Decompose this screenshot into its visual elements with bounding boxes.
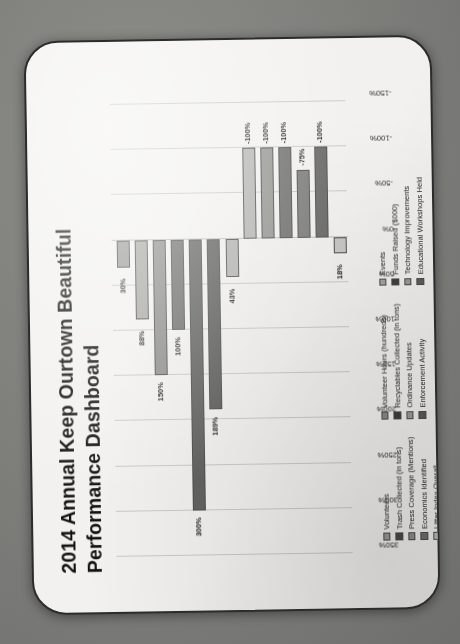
chart-bar-row: 150% xyxy=(150,104,170,556)
chart-bar-row: -100% xyxy=(241,103,261,555)
chart-bar-row: 189% xyxy=(205,103,225,555)
legend-swatch-icon xyxy=(396,533,404,541)
bar-value-label: 189% xyxy=(209,417,222,436)
legend-item-label: Volunteers xyxy=(382,494,392,530)
legend-swatch-icon xyxy=(404,278,412,286)
bar-value-label: -75% xyxy=(295,148,308,165)
chart-bar xyxy=(171,239,185,330)
bar-value-label: -100% xyxy=(277,122,290,144)
legend-item: Trash Collected (in tons) xyxy=(393,437,404,541)
legend-item-label: Recyclables Collected (in tons) xyxy=(391,304,402,408)
bar-value-label: 300% xyxy=(192,517,205,536)
legend-item-label: Events xyxy=(378,252,387,275)
legend-swatch-icon xyxy=(419,411,427,419)
chart-bar xyxy=(334,237,347,253)
slide-canvas: 2014 Annual Keep Ourtown Beautiful Perfo… xyxy=(37,48,428,602)
legend-column: Volunteer Hours (hundreds)Recyclables Co… xyxy=(379,303,440,419)
chart-bars: 30%88%150%100%300%189%43%-100%-100%-100%… xyxy=(112,101,353,557)
bar-value-label: 150% xyxy=(154,382,167,401)
bar-value-label: 43% xyxy=(225,289,238,304)
chart-legend: VolunteersTrash Collected (in tons)Press… xyxy=(375,90,440,541)
chart-bar xyxy=(116,240,129,267)
chart-plot-area: 30%88%150%100%300%189%43%-100%-100%-100%… xyxy=(110,101,353,557)
legend-item: Litter Index Overall xyxy=(431,436,441,540)
chart-bar xyxy=(225,239,239,278)
chart-bar xyxy=(207,239,223,410)
legend-item-label: Funds Raised ($000) xyxy=(390,204,400,275)
chart-bar-row: 43% xyxy=(223,103,243,555)
chart-bar xyxy=(153,240,168,376)
chart-bar xyxy=(278,147,292,238)
chart-bar-row: 18% xyxy=(332,101,352,553)
page-title: 2014 Annual Keep Ourtown Beautiful Perfo… xyxy=(50,103,109,574)
legend-item-label: Trash Collected (in tons) xyxy=(393,447,403,530)
bar-value-label: 100% xyxy=(171,337,184,356)
legend-item: Press Coverage (Mentions) xyxy=(406,437,417,541)
chart-bar-row: 300% xyxy=(187,103,207,555)
legend-item: Enforcement Activity xyxy=(416,303,427,418)
legend-item: Recyclables Collected (in tons) xyxy=(391,304,402,419)
chart-bar-row: 88% xyxy=(132,104,152,556)
chart-bar-row: 30% xyxy=(114,105,134,557)
chart-bar-row: -100% xyxy=(277,102,297,554)
photo-background: 2014 Annual Keep Ourtown Beautiful Perfo… xyxy=(0,0,460,644)
legend-item: Volunteers xyxy=(381,437,392,541)
legend-swatch-icon xyxy=(408,533,416,541)
legend-item: Ordinance Updates xyxy=(404,303,415,418)
legend-swatch-icon xyxy=(392,278,400,286)
axis-tick-label: 350% xyxy=(379,540,399,549)
bar-value-label: -100% xyxy=(240,122,253,144)
bar-value-label: -100% xyxy=(259,122,272,144)
bar-value-label: 30% xyxy=(116,279,129,294)
chart-bar xyxy=(297,170,311,238)
legend-item-label: Ordinance Updates xyxy=(404,342,414,408)
legend-swatch-icon xyxy=(381,412,389,420)
bar-value-label: 18% xyxy=(333,264,346,279)
bar-value-label: -100% xyxy=(313,121,326,143)
chart-bar-row: -75% xyxy=(296,102,316,554)
legend-item: Volunteer Hours (hundreds) xyxy=(379,304,390,419)
legend-column: VolunteersTrash Collected (in tons)Press… xyxy=(381,436,441,540)
legend-swatch-icon xyxy=(417,278,425,286)
chart-bar-row: -100% xyxy=(259,102,279,554)
legend-swatch-icon xyxy=(421,532,429,540)
paper-sheet: 2014 Annual Keep Ourtown Beautiful Perfo… xyxy=(24,35,441,615)
legend-swatch-icon xyxy=(383,533,391,541)
chart-bar xyxy=(134,240,148,320)
legend-swatch-icon xyxy=(394,411,402,419)
legend-item-label: Technology Improvements xyxy=(402,186,412,275)
legend-swatch-icon xyxy=(406,411,414,419)
legend-item-label: Enforcement Activity xyxy=(417,339,427,408)
bar-value-label: 88% xyxy=(135,331,148,346)
legend-item-label: Volunteer Hours (hundreds) xyxy=(379,315,389,408)
chart-bar xyxy=(314,147,328,238)
legend-item-label: Educational Workshops Held xyxy=(414,177,425,275)
legend-swatch-icon xyxy=(379,278,387,286)
legend-item: Funds Raised ($000) xyxy=(389,177,400,286)
legend-item-label: Economics Identified xyxy=(419,459,429,529)
legend-column: EventsFunds Raised ($000)Technology Impr… xyxy=(377,177,438,286)
chart-bar xyxy=(242,148,256,239)
legend-item: Educational Workshops Held xyxy=(414,177,425,286)
chart-bar-row: 100% xyxy=(169,104,189,556)
legend-item-label: Litter Index Overall xyxy=(431,465,440,529)
chart-bar-row: -100% xyxy=(314,101,334,553)
legend-item: Economics Identified xyxy=(418,437,429,541)
chart-bar xyxy=(260,148,274,239)
chart-bar xyxy=(189,239,206,510)
legend-item-label: Press Coverage (Mentions) xyxy=(406,437,416,530)
legend-item: Events xyxy=(377,178,388,287)
legend-swatch-icon xyxy=(433,532,440,540)
legend-item: Technology Improvements xyxy=(402,177,413,286)
